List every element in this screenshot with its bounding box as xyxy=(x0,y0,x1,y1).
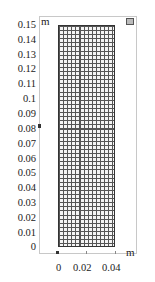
axis-marker-icon xyxy=(38,124,41,128)
y-tick: 0.11 xyxy=(0,79,36,89)
y-tick: 0.05 xyxy=(0,168,36,178)
y-tick: 0.01 xyxy=(0,228,36,238)
x-tick: 0 xyxy=(56,262,61,273)
x-tick: 0.02 xyxy=(73,262,91,273)
x-unit-label: m xyxy=(126,246,135,258)
y-tick: 0 xyxy=(0,242,36,252)
y-tick: 0.04 xyxy=(0,183,36,193)
y-tick: 0.09 xyxy=(0,109,36,119)
y-tick: 0.06 xyxy=(0,154,36,164)
y-tick: 0.03 xyxy=(0,198,36,208)
y-tick: 0.08 xyxy=(0,124,36,134)
x-tick-mark xyxy=(115,251,116,254)
y-tick: 0.14 xyxy=(0,35,36,45)
mesh-rectangle[interactable] xyxy=(58,25,115,247)
view-cube-icon[interactable] xyxy=(126,18,134,25)
y-tick: 0.02 xyxy=(0,213,36,223)
y-unit-label: m xyxy=(41,15,50,27)
x-tick: 0.04 xyxy=(102,262,120,273)
y-tick: 0.1 xyxy=(0,94,36,104)
origin-marker-icon xyxy=(56,251,59,254)
y-tick: 0.12 xyxy=(0,64,36,74)
y-tick: 0.15 xyxy=(0,20,36,30)
y-tick: 0.13 xyxy=(0,50,36,60)
y-tick: 0.07 xyxy=(0,139,36,149)
x-tick-mark xyxy=(86,251,87,254)
